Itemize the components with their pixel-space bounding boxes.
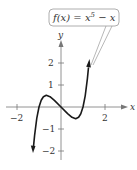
- callout-pointer: [93, 26, 112, 65]
- curve-arrow-down-icon: [31, 146, 36, 154]
- x-tick-label: −2: [10, 113, 23, 123]
- y-tick-label: −2: [42, 146, 55, 156]
- x-axis-arrow-icon: [121, 105, 128, 110]
- y-tick-label: −1: [42, 124, 55, 134]
- x-tick-label: 2: [102, 113, 108, 123]
- function-callout-label: f(x) = x5 − x: [52, 11, 116, 23]
- y-tick-label: 2: [48, 58, 54, 68]
- function-graph: x y −2 2 2 1 −1 −2 f(x) = x5 − x: [0, 0, 137, 170]
- x-axis-label: x: [130, 102, 135, 112]
- y-axis-arrow-icon: [59, 40, 64, 47]
- y-axis-label: y: [57, 30, 64, 40]
- curve-arrow-up-icon: [86, 59, 91, 67]
- callout-pointer: [91, 26, 106, 65]
- y-tick-label: 1: [48, 80, 54, 90]
